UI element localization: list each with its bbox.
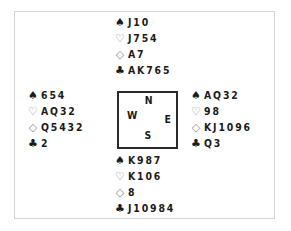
spade-icon: ♠ xyxy=(27,88,39,104)
west-clubs: 2 xyxy=(41,136,49,152)
diamond-icon: ◇ xyxy=(190,120,202,136)
compass-south: S xyxy=(145,129,152,142)
south-clubs: J10984 xyxy=(128,201,175,217)
spade-icon: ♠ xyxy=(114,15,126,31)
south-diamonds: 8 xyxy=(128,185,136,201)
north-spades: J10 xyxy=(128,15,150,31)
compass-east: E xyxy=(165,113,171,126)
west-hearts: AQ32 xyxy=(41,104,77,120)
west-diamonds: Q5432 xyxy=(41,120,84,136)
diamond-icon: ◇ xyxy=(27,120,39,136)
spade-icon: ♠ xyxy=(190,88,202,104)
east-clubs: Q3 xyxy=(204,136,222,152)
south-hearts: K106 xyxy=(128,169,162,185)
diamond-icon: ◇ xyxy=(114,47,126,63)
east-diamonds: KJ1096 xyxy=(204,120,252,136)
club-icon: ♣ xyxy=(190,136,202,152)
compass-north: N xyxy=(145,94,153,107)
compass-west: W xyxy=(127,109,137,122)
club-icon: ♣ xyxy=(114,201,126,217)
compass-box: N W E S xyxy=(117,91,178,149)
heart-icon: ♡ xyxy=(27,104,39,120)
heart-icon: ♡ xyxy=(190,104,202,120)
west-spades: 654 xyxy=(41,88,66,104)
east-spades: AQ32 xyxy=(204,88,240,104)
north-diamonds: A7 xyxy=(128,47,145,63)
club-icon: ♣ xyxy=(114,63,126,79)
south-spades: K987 xyxy=(128,153,162,169)
north-hearts: J754 xyxy=(128,31,158,47)
diamond-icon: ◇ xyxy=(114,185,126,201)
heart-icon: ♡ xyxy=(114,169,126,185)
east-hearts: 98 xyxy=(204,104,221,120)
club-icon: ♣ xyxy=(27,136,39,152)
heart-icon: ♡ xyxy=(114,31,126,47)
spade-icon: ♠ xyxy=(114,153,126,169)
north-clubs: AK765 xyxy=(128,63,171,79)
